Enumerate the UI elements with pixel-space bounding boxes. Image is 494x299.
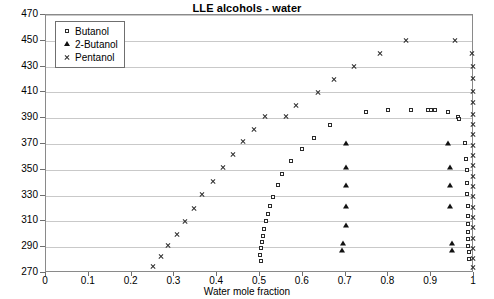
x-tick-mark [473,272,474,276]
x-tick-label: 0.7 [330,275,360,286]
x-tick-mark [259,272,260,276]
x-tick-label: 0.1 [73,275,103,286]
gridline [46,170,472,171]
x-tick-label: 0.5 [244,275,274,286]
gridline [46,92,472,93]
x-tick-mark [430,272,431,276]
x-tick-label: 1 [458,275,488,286]
x-tick-label: 0.3 [158,275,188,286]
gridline [46,15,472,16]
legend-item-label: 2-Butanol [73,39,118,50]
x-tick-mark [387,272,388,276]
x-tick-mark [173,272,174,276]
x-tick-label: 0.2 [116,275,146,286]
x-tick-label: 0.8 [372,275,402,286]
chart-legend: Butanol2-ButanolPentanol [55,21,125,68]
x-tick-label: 0.6 [287,275,317,286]
x-tick-mark [216,272,217,276]
x-tick-label: 0.9 [415,275,445,286]
cross-icon [60,51,73,64]
x-tick-label: 0 [30,275,60,286]
legend-item-label: Pentanol [73,52,114,63]
x-tick-mark [45,272,46,276]
gridline [46,196,472,197]
x-tick-mark [88,272,89,276]
legend-item-label: Butanol [73,26,109,37]
x-tick-mark [302,272,303,276]
x-tick-mark [131,272,132,276]
gridline [46,247,472,248]
gridline [46,144,472,145]
x-tick-mark [345,272,346,276]
gridline [46,221,472,222]
legend-item-butanol[interactable]: Butanol [60,25,118,38]
chart-container: LLE alcohols - water T/K Water mole frac… [0,0,494,299]
filled-triangle-icon [60,38,73,51]
open-square-icon [60,25,73,38]
legend-item-2-butanol[interactable]: 2-Butanol [60,38,118,51]
legend-item-pentanol[interactable]: Pentanol [60,51,118,64]
gridline [46,118,472,119]
x-tick-label: 0.4 [201,275,231,286]
